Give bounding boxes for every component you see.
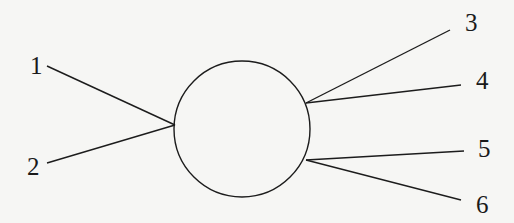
- edges-group: [47, 30, 464, 200]
- edge-5: [306, 151, 464, 160]
- label-2: 2: [27, 153, 40, 180]
- label-1: 1: [30, 52, 43, 79]
- label-3: 3: [465, 9, 478, 36]
- diagram-canvas: 1 2 3 4 5 6: [0, 0, 514, 223]
- label-5: 5: [478, 135, 491, 162]
- labels-group: 1 2 3 4 5 6: [27, 9, 491, 218]
- interaction-blob: [174, 61, 310, 197]
- edge-6: [306, 160, 461, 200]
- edge-4: [306, 85, 461, 103]
- edge-2: [47, 125, 175, 163]
- edge-1: [47, 66, 175, 125]
- label-4: 4: [476, 67, 489, 94]
- label-6: 6: [476, 191, 489, 218]
- edge-3: [306, 30, 450, 103]
